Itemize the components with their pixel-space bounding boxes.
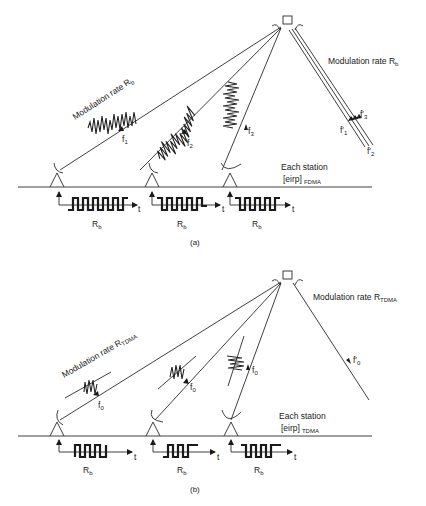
bitstream-1: t Rb [59, 192, 141, 230]
downlink-carrier-f1: f′1 [340, 125, 348, 136]
carrier-label-f0-3: f0 [252, 365, 258, 376]
waveform-f1 [88, 112, 136, 134]
bitstream-3: t Rb [230, 192, 295, 230]
bitrate-label-3: Rb [252, 219, 262, 230]
svg-text:t: t [138, 204, 141, 214]
uplink-modulation-label: Modulation rate RTDMA [60, 329, 138, 381]
bitstream-2: t Rb [152, 192, 225, 230]
station-eirp-note-line1: Each station [279, 411, 326, 421]
bitrate-label-2: Rb [177, 219, 187, 230]
bitstream-3: t Rb [231, 440, 297, 476]
earth-station-antenna-1 [50, 410, 64, 436]
earth-station-antenna-3 [221, 163, 241, 187]
downlink-carrier-f0: f′0 [353, 355, 361, 366]
panel-b-caption: (b) [190, 485, 200, 494]
downlink-carrier-f2: f′2 [367, 146, 375, 157]
carrier-label-f3: f3 [248, 126, 254, 137]
burst-waveform-3 [227, 336, 244, 386]
bitstream-1: t Rb [59, 440, 137, 476]
carrier-label-f0-1: f0 [98, 400, 104, 411]
station-eirp-note-line2: [eirp]TDMA [281, 423, 319, 434]
downlink-modulation-label: Modulation rate Rb [328, 56, 399, 67]
svg-text:t: t [222, 204, 225, 214]
svg-text:t: t [134, 452, 137, 462]
downlink-beam-1 [289, 30, 365, 147]
downlink-modulation-label: Modulation rate RTDMA [313, 292, 397, 303]
satellite-icon [272, 16, 303, 30]
earth-station-antenna-1 [50, 163, 64, 187]
carrier-label-f1: f1 [122, 134, 128, 145]
downlink-beam-2 [292, 29, 369, 146]
bitrate-label-2: Rb [177, 465, 187, 476]
bitstream-2: t Rb [153, 440, 220, 476]
station-eirp-note-line2: [eirp]FDMA [283, 174, 321, 185]
uplink-beam-3 [231, 283, 281, 420]
uplink-beam-2 [155, 283, 281, 420]
carrier-label-f2: f2 [187, 138, 193, 149]
satellite-icon [272, 271, 303, 285]
bitrate-label-1: Rb [92, 219, 102, 230]
panel-a-caption: (a) [190, 238, 200, 247]
downlink-carrier-f3: f′3 [360, 109, 368, 120]
earth-station-antenna-2 [145, 163, 159, 187]
burst-waveform-1 [65, 372, 111, 398]
bitrate-label-3: Rb [254, 465, 264, 476]
bitrate-label-1: Rb [83, 465, 93, 476]
station-eirp-note-line1: Each station [281, 162, 328, 172]
waveform-f2 [144, 105, 207, 162]
svg-text:t: t [217, 452, 220, 462]
fdma-tdma-diagram: f1 f2 f3 Modulation rate Rb Modulation r… [0, 0, 426, 506]
downlink-beam-3 [295, 28, 373, 145]
svg-text:t: t [292, 204, 295, 214]
panel-a: f1 f2 f3 Modulation rate Rb Modulation r… [18, 16, 399, 247]
svg-text:t: t [294, 452, 297, 462]
carrier-label-f0-2: f0 [190, 382, 196, 393]
waveform-f3 [223, 82, 239, 128]
earth-station-antenna-3 [222, 410, 241, 436]
panel-b: f0 f0 f0 Modulation rate RTDMA Modulatio… [18, 271, 397, 494]
